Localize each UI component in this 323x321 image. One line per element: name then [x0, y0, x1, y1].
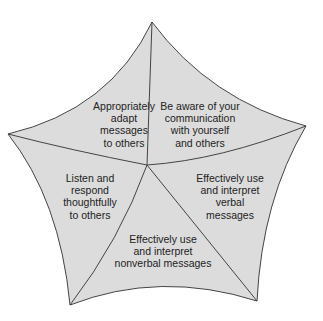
- segment-verbal-messages: Effectively use and interpret verbal mes…: [180, 172, 280, 221]
- segment-be-aware: Be aware of your communication with your…: [150, 100, 250, 149]
- segment-listen-respond: Listen and respond thoughtfully to other…: [50, 172, 130, 221]
- segment-nonverbal-messages: Effectively use and interpret nonverbal …: [108, 233, 218, 270]
- communication-competence-diagram: [0, 0, 323, 321]
